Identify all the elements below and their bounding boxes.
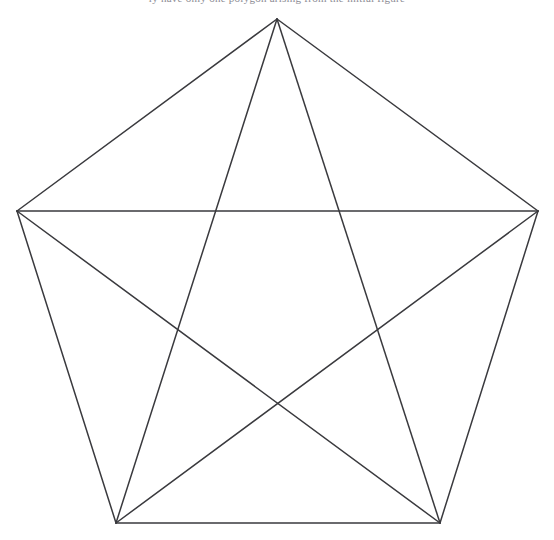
pentagon-diagonal-ac bbox=[277, 19, 440, 523]
pentagon-side-bc bbox=[440, 211, 538, 523]
pentagon-side-ab bbox=[277, 19, 538, 211]
pentagon-diagonal-bd bbox=[116, 211, 538, 523]
pentagon-diagram-svg bbox=[0, 0, 554, 540]
pentagon-diagonal-ad bbox=[116, 19, 277, 523]
pentagon-diagram-figure bbox=[0, 0, 554, 540]
pentagon-side-ea bbox=[17, 19, 277, 211]
pentagon-side-de bbox=[17, 211, 116, 523]
pentagon-diagonal-ce bbox=[17, 211, 440, 523]
pentagon-sides-group bbox=[17, 19, 538, 523]
figure-page: ly have only one polygon arising from th… bbox=[0, 0, 554, 540]
pentagon-diagonals-group bbox=[17, 19, 538, 523]
